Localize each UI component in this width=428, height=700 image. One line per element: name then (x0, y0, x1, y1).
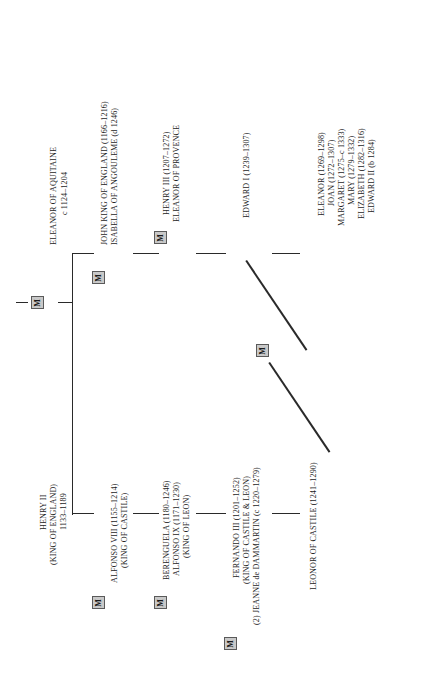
person-henry-ii-dates: 1133–1189 (60, 493, 68, 530)
connector-marriage-to-spine (58, 302, 73, 303)
connector-spine-main (72, 253, 73, 515)
person-henry-iii-name: HENRY III (1207–1272) (163, 131, 171, 215)
connector-john-to-henry3 (133, 253, 159, 254)
child-joan-1272: JOAN (1272–1307) (328, 140, 336, 206)
marriage-marker-john-isabella[interactable]: M (92, 271, 105, 284)
person-leonor-castile-name: LEONOR OF CASTILE (1241–1290) (310, 462, 318, 590)
marriage-marker-fernando-jeanne[interactable]: M (224, 637, 237, 650)
marriage-marker-edward1-leonor[interactable]: M (256, 344, 269, 357)
person-henry-ii-title: (KING OF ENGLAND) (50, 484, 58, 565)
person-jeanne-dammartin-name: (2) JEANNE de DAMMARTIN (c 1220–1279) (253, 467, 261, 625)
connector-diagonal-marriage-leonor (269, 362, 331, 452)
person-alfonso-ix-name: ALFONSO IX (1171–1230) (173, 482, 181, 576)
marriage-marker-label: M (157, 599, 165, 607)
person-john-king-name: JOHN KING OF ENGLAND (1166–1216) (101, 101, 109, 245)
connector-marriage-tick-top (16, 302, 28, 303)
connector-fernando-to-leonor (272, 513, 300, 514)
genealogy-chart: M M M M M M M HENRY II (KING OF ENGLAND)… (0, 0, 428, 700)
marriage-marker-henry3-eleanor-provence[interactable]: M (154, 231, 167, 244)
child-mary-1279: MARY (1279–1332) (348, 136, 356, 205)
connector-henry3-to-edward1 (196, 253, 226, 254)
person-fernando-iii-title: (KING OF CASTILE & LEON) (243, 476, 251, 584)
person-alfonso-ix-title: (KING OF LEON) (183, 495, 191, 558)
marriage-marker-berenguela-alfonso9[interactable]: M (154, 596, 167, 609)
connector-eleanor-to-berenguela (133, 513, 159, 514)
marriage-marker-label: M (259, 347, 267, 355)
person-eleanor-provence-name: ELEANOR OF PROVENCE (173, 125, 181, 222)
marriage-marker-label: M (227, 640, 235, 648)
marriage-marker-label: M (34, 299, 42, 307)
connector-edward1-to-children (272, 253, 300, 254)
person-berenguela-name: BERENGUELA (1180–1246) (163, 480, 171, 580)
person-fernando-iii-name: FERNANDO III (1201–1252) (233, 477, 241, 578)
marriage-marker-label: M (95, 599, 103, 607)
marriage-marker-label: M (95, 274, 103, 282)
person-alfonso-viii-name: ALFONSO VIII (1155–1214) (111, 483, 119, 583)
person-henry-ii-name: HENRY II (40, 494, 48, 530)
child-edward-ii-1284: EDWARD II (b 1284) (368, 139, 376, 213)
connector-spine-to-eleanor-castile (72, 513, 94, 514)
marriage-marker-label: M (157, 234, 165, 242)
person-isabella-angouleme-name: ISABELLA OF ANGOULEME (d 1246) (111, 108, 119, 245)
person-edward-i-name: EDWARD I (1239–1307) (243, 132, 251, 218)
person-eleanor-aquitaine-dates: c 1124–1204 (61, 172, 69, 215)
connector-spine-to-john (72, 253, 94, 254)
person-eleanor-aquitaine-name: ELEANOR OF AQUITAINE (50, 147, 58, 245)
child-eleanor-1269: ELEANOR (1269–1298) (318, 132, 326, 216)
connector-diagonal-edward1-marriage (246, 260, 308, 350)
child-elizabeth-1282: ELIZABETH (1282–1316) (358, 128, 366, 219)
person-alfonso-viii-title: (KING OF CASTILE) (121, 493, 129, 568)
connector-berenguela-to-fernando (196, 513, 226, 514)
child-margaret-1275: MARGARET (1275–c 1333) (338, 129, 346, 226)
marriage-marker-eleanor-alfonso8[interactable]: M (92, 596, 105, 609)
marriage-marker-henry2-eleanor[interactable]: M (31, 296, 44, 309)
